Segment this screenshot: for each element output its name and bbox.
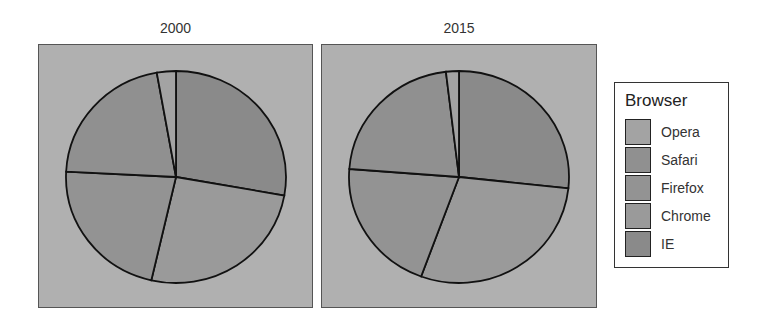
legend-item-safari: Safari [625, 147, 725, 175]
legend-swatch-ie [625, 231, 651, 257]
legend-label-ie: IE [661, 236, 674, 252]
pie-slice-safari [349, 72, 459, 177]
pie-panel-2000 [38, 44, 313, 308]
pie-chart-2015 [322, 45, 598, 309]
legend-label-chrome: Chrome [661, 208, 711, 224]
legend-item-firefox: Firefox [625, 175, 725, 203]
legend-swatch-firefox [625, 175, 651, 201]
pie-panel-2015 [321, 44, 597, 308]
facet-label-2015: 2015 [321, 20, 597, 40]
legend-swatch-opera [625, 119, 651, 145]
legend-swatch-safari [625, 147, 651, 173]
pie-slice-ie [459, 71, 569, 188]
legend-item-opera: Opera [625, 119, 725, 147]
legend-title: Browser [625, 91, 687, 111]
legend-swatch-chrome [625, 203, 651, 229]
legend-item-chrome: Chrome [625, 203, 725, 231]
pie-chart-2000 [39, 45, 314, 309]
legend-label-opera: Opera [661, 124, 700, 140]
legend-item-ie: IE [625, 231, 725, 259]
pie-slice-ie [176, 71, 286, 196]
legend: Browser Opera Safari Firefox Chrome IE [614, 82, 729, 268]
facet-label-2000: 2000 [38, 20, 313, 40]
legend-label-firefox: Firefox [661, 180, 704, 196]
legend-label-safari: Safari [661, 152, 698, 168]
